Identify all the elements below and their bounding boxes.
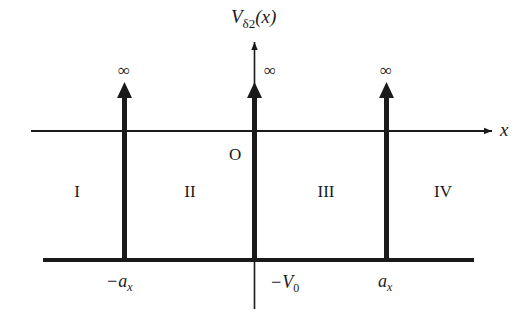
position-label-sub: x: [127, 280, 132, 294]
potential-floor-label-main: −V: [270, 272, 293, 292]
infinity-label-right: ∞: [380, 61, 392, 81]
potential-diagram: [0, 0, 528, 323]
origin-label: O: [229, 145, 241, 165]
potential-floor-label-sub: 0: [293, 281, 299, 295]
region-label-III: III: [318, 182, 335, 202]
position-label-sub: x: [387, 280, 392, 294]
delta-spike-left: [117, 82, 132, 261]
region-label-I: I: [74, 182, 80, 202]
y-axis-label-main: V: [231, 6, 243, 27]
infinity-label-left: ∞: [118, 61, 130, 81]
position-label-ax: ax: [378, 271, 392, 292]
delta-spike-right: [379, 82, 394, 261]
position-label-main: −a: [106, 271, 127, 291]
up-arrowhead-icon: [117, 82, 132, 98]
region-label-II: II: [184, 182, 195, 202]
position-label-minus-ax: −ax: [106, 271, 132, 292]
position-label-main: a: [378, 271, 387, 291]
infinity-label-center: ∞: [264, 61, 276, 81]
y-axis-label-sub: δ2: [243, 16, 256, 31]
x-axis-label: x: [500, 119, 508, 141]
y-axis-label-arg: (x): [255, 6, 276, 27]
potential-floor-label: −V0: [270, 272, 299, 293]
region-label-IV: IV: [434, 182, 452, 202]
up-arrowhead-icon: [379, 82, 394, 98]
y-axis-label: Vδ2(x): [231, 6, 276, 28]
